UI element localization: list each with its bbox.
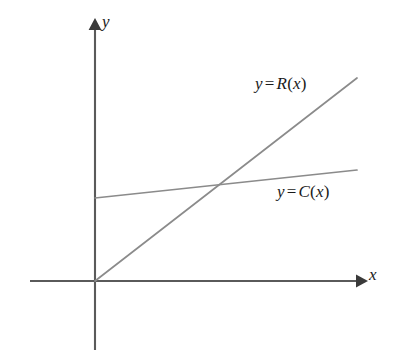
cost-label-equals: = — [285, 182, 299, 201]
break-even-graph-figure: y=R(x) y=C(x) y x — [0, 0, 400, 364]
y-axis-arrow-icon — [89, 18, 102, 30]
revenue-label-close-paren: ) — [301, 74, 307, 93]
graph-canvas — [0, 0, 400, 364]
cost-line-label: y=C(x) — [277, 182, 330, 202]
cost-label-close-paren: ) — [324, 182, 330, 201]
cost-label-y: y — [277, 182, 285, 201]
x-axis-label: x — [369, 265, 377, 285]
revenue-line-label: y=R(x) — [255, 74, 307, 94]
cost-label-fn: C — [299, 182, 311, 201]
cost-label-arg: x — [316, 182, 324, 201]
revenue-line — [95, 78, 357, 281]
revenue-label-arg: x — [293, 74, 301, 93]
revenue-label-equals: = — [263, 74, 277, 93]
y-axis-label: y — [102, 12, 110, 32]
revenue-label-fn: R — [277, 74, 288, 93]
x-axis-arrow-icon — [356, 275, 368, 288]
revenue-label-y: y — [255, 74, 263, 93]
